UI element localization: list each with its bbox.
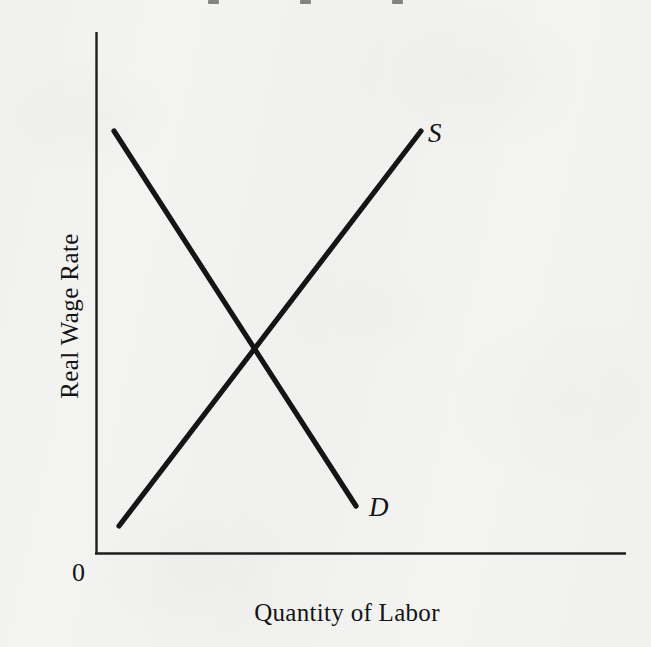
x-axis-title: Quantity of Labor <box>197 600 497 625</box>
y-axis-title: Real Wage Rate <box>57 196 82 436</box>
demand-curve-label: D <box>369 494 389 521</box>
supply-curve <box>119 131 421 526</box>
demand-curve <box>114 131 356 506</box>
supply-demand-figure: Real Wage Rate Quantity of Labor 0 S D <box>0 0 651 647</box>
plot-canvas <box>0 0 651 647</box>
supply-curve-label: S <box>428 120 442 147</box>
origin-label: 0 <box>72 560 85 586</box>
